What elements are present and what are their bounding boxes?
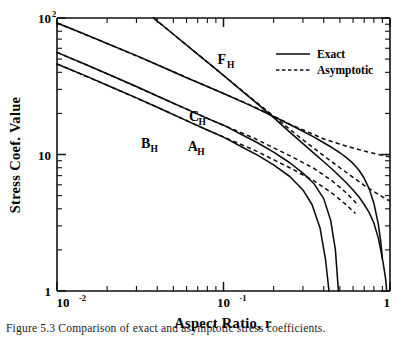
curve-f-h-exact bbox=[154, 18, 387, 291]
legend-label-asymptotic: Asymptotic bbox=[317, 64, 373, 77]
legend-label-exact: Exact bbox=[317, 48, 345, 60]
figure-caption: Figure 5.3 Comparison of exact and asymp… bbox=[6, 322, 406, 337]
x-tick-exponent-0: -2 bbox=[79, 293, 86, 303]
curve-label-f-h: F bbox=[217, 52, 226, 67]
curve-annotations: FHCHBHAH bbox=[141, 52, 235, 157]
curve-label-c-h-subscript: H bbox=[198, 117, 206, 127]
y-tick-label-1: 10 bbox=[38, 148, 51, 163]
curve-label-a-h-subscript: H bbox=[197, 147, 205, 157]
x-tick-exponent-1: -1 bbox=[240, 293, 247, 303]
stress-coefficient-chart: FHCHBHAH Exact Asymptotic Aspect Ratio, … bbox=[0, 0, 408, 337]
y-tick-label-0: 1 bbox=[45, 284, 52, 299]
y-tick-label-2: 10 bbox=[38, 11, 51, 26]
curve-label-b-h-subscript: H bbox=[151, 144, 159, 154]
curve-b-h-exact bbox=[57, 64, 329, 291]
curve-label-b-h: B bbox=[141, 136, 150, 151]
curve-label-f-h-subscript: H bbox=[227, 60, 235, 70]
x-tick-label-0: 10 bbox=[57, 295, 70, 310]
y-tick-exponent-2: 2 bbox=[52, 9, 56, 19]
y-axis-title: Stress Coef. Value bbox=[7, 96, 23, 213]
x-tick-label-2: 1 bbox=[384, 295, 391, 310]
chart-legend: Exact Asymptotic bbox=[276, 48, 373, 77]
x-tick-label-1: 10 bbox=[217, 295, 230, 310]
figure-root: FHCHBHAH Exact Asymptotic Aspect Ratio, … bbox=[0, 0, 408, 337]
